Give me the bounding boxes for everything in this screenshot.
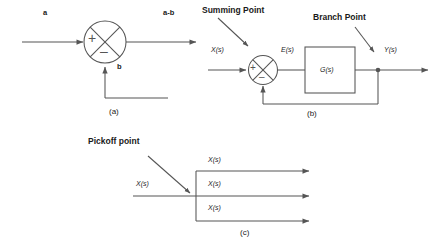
- diagram-b-block-label: G(s): [320, 66, 334, 73]
- diagram-c-branch-label-1: X(s): [208, 156, 221, 163]
- diagram-c-branch-label-2: X(s): [208, 180, 221, 187]
- diagram-c-input-label: X(s): [136, 180, 149, 187]
- diagram-b-summing-plus-sign: +: [250, 63, 256, 73]
- diagram-a-summing-minus-sign: –: [100, 44, 108, 58]
- diagram-a-output-label: a-b: [163, 9, 174, 17]
- diagram-c-caption: (c): [240, 229, 249, 237]
- diagram-a-input-label: a: [43, 9, 47, 17]
- diagram-b-error-label: E(s): [281, 46, 294, 53]
- figure-canvas: a a-b b + – (a) Summing Point Branch Poi…: [0, 0, 437, 250]
- diagram-b-output-label: Y(s): [384, 46, 397, 53]
- diagram-b-summing-minus-sign: –: [259, 72, 265, 82]
- summing-point-callout: Summing Point: [202, 6, 264, 15]
- diagram-a-feedback-label: b: [117, 63, 122, 71]
- diagram-a-summing-plus-sign: +: [88, 31, 96, 45]
- branch-point-callout: Branch Point: [313, 13, 366, 22]
- diagram-c-branch-label-3: X(s): [208, 204, 221, 211]
- diagram-b-lines: [208, 18, 428, 104]
- diagram-b-input-label: X(s): [211, 46, 224, 53]
- diagram-c-lines: [133, 156, 309, 221]
- diagram-a-lines: [22, 21, 196, 98]
- diagram-a-caption: (a): [109, 108, 119, 116]
- diagram-vector-layer: [0, 0, 437, 250]
- pickoff-point-callout: Pickoff point: [88, 137, 139, 146]
- diagram-b-caption: (b): [307, 110, 317, 118]
